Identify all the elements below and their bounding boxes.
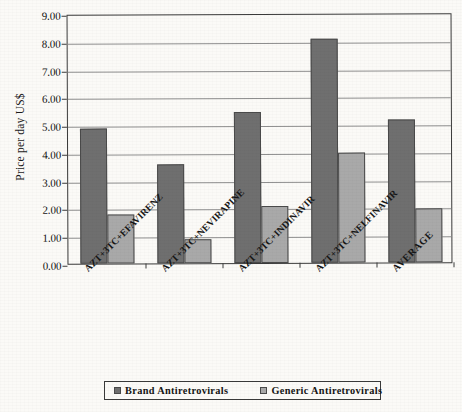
y-axis-tick-label: 3.00 [42,176,61,188]
legend-item-generic-label: Generic Antiretrovirals [271,385,382,396]
bar-brand [310,39,338,263]
legend-item-generic: Generic Antiretrovirals [260,385,382,396]
chart-legend: Brand Antiretrovirals Generic Antiretrov… [104,381,381,400]
y-axis-tick-label: 8.00 [42,38,61,50]
y-axis-tick-label: 5.00 [42,121,61,133]
legend-item-brand: Brand Antiretrovirals [114,385,228,396]
y-axis-tick-label: 4.00 [42,149,61,161]
y-axis-title: Price per day US$ [14,0,32,62]
y-axis-tick-mark [62,44,67,45]
y-axis-tick-label: 6.00 [42,93,61,105]
generic-swatch-icon [260,387,267,394]
y-axis-title-label: Price per day US$ [14,62,26,212]
y-axis-tick-label: 9.00 [42,10,61,22]
x-axis-tick-mark [453,262,454,267]
y-axis-tick-mark [62,71,67,72]
legend-item-brand-label: Brand Antiretrovirals [125,385,228,396]
bar-chart: Price per day US$ 9.008.007.006.005.004.… [0,0,462,412]
y-axis-tick-mark [62,99,67,100]
y-axis-tick-mark [62,182,67,183]
y-axis-tick-label: 2.00 [42,204,61,216]
y-axis-tick-mark [62,210,67,211]
y-axis-tick-mark [62,16,67,17]
y-axis-tick-mark [62,155,67,156]
y-axis-tick-mark [62,127,67,128]
x-axis-category-labels: AZT+3TC+EFAVIRENZAZT+3TC+NEVIRAPINEAZT+3… [67,266,452,361]
y-axis-tick-label: 0.00 [43,260,62,272]
y-axis-tick-label: 7.00 [42,65,61,77]
y-axis-tick-mark [62,238,67,239]
brand-swatch-icon [114,387,121,394]
y-axis-tick-label: 1.00 [42,232,61,244]
